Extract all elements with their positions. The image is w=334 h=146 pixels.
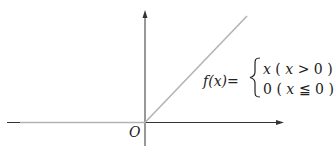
case-var: x <box>285 61 293 77</box>
paren-close: ) <box>327 61 332 77</box>
case-value: 0 <box>263 81 272 97</box>
case-positive: x ( x > 0 ) <box>263 62 333 76</box>
x-axis-arrow-icon <box>276 120 284 125</box>
case-value: x <box>263 61 271 77</box>
case-bound: 0 <box>315 81 324 97</box>
case-operator: > <box>298 61 310 77</box>
paren-open: ( <box>275 61 280 77</box>
case-var: x <box>286 81 294 97</box>
relu-linear-segment <box>145 16 247 123</box>
case-nonpositive: 0 ( x ≦ 0 ) <box>263 82 334 96</box>
origin-label: O <box>129 125 140 139</box>
function-label: f(x)= <box>203 74 239 88</box>
paren-close: ) <box>328 81 333 97</box>
piecewise-brace-icon <box>250 58 260 97</box>
case-operator: ≦ <box>299 81 311 97</box>
paren-open: ( <box>276 81 281 97</box>
case-bound: 0 <box>314 61 323 77</box>
function-name: f(x)= <box>203 73 239 89</box>
y-axis-arrow-icon <box>143 10 148 18</box>
